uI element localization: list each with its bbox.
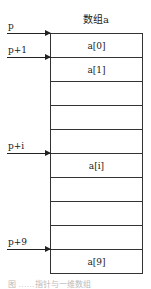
pointer-label-pi: p+i <box>8 141 24 151</box>
array-cell: a[9] <box>51 250 142 274</box>
arrow-icon <box>7 57 51 58</box>
figure-caption: 图 ……指针与一维数组 <box>8 278 91 289</box>
array-cell: a[i] <box>51 154 142 178</box>
array-cell <box>51 130 142 154</box>
pointer-label-p1: p+1 <box>8 45 27 55</box>
pointer-label-p: p <box>8 21 14 31</box>
arrow-icon <box>7 153 51 154</box>
array-cell: a[0] <box>51 34 142 58</box>
pointer-label-p9: p+9 <box>8 237 27 247</box>
arrow-icon <box>7 33 51 34</box>
array-box: a[0] a[1] a[i] a[9] <box>50 33 143 274</box>
array-cell <box>51 226 142 250</box>
array-cell: a[1] <box>51 58 142 82</box>
arrow-icon <box>7 249 51 250</box>
array-cell <box>51 82 142 106</box>
array-cell <box>51 202 142 226</box>
array-cell <box>51 178 142 202</box>
array-title: 数组a <box>50 11 142 26</box>
array-cell <box>51 106 142 130</box>
